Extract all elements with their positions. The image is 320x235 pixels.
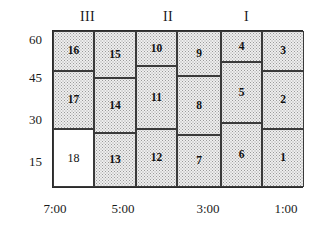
block-cell-label: 5 [239,87,245,99]
block-cell-14[interactable]: 14 [94,78,136,133]
block-cell-label: 17 [68,94,80,106]
y-tick-45: 45 [14,71,42,84]
y-tick-15: 15 [14,155,42,168]
block-cell-16[interactable]: 16 [53,31,94,71]
y-tick-60: 60 [14,33,42,46]
block-cell-label: 3 [280,45,286,57]
block-cell-label: 8 [196,100,202,112]
block-cell-1[interactable]: 1 [262,129,304,187]
block-cell-label: 18 [68,152,80,164]
block-cell-label: 11 [151,92,162,104]
block-cell-13[interactable]: 13 [94,133,136,187]
block-cell-17[interactable]: 17 [53,71,94,129]
block-cell-label: 1 [280,152,286,164]
block-cell-5[interactable]: 5 [221,62,262,123]
block-cell-4[interactable]: 4 [221,31,262,62]
block-cell-11[interactable]: 11 [136,66,177,129]
block-cell-label: 2 [280,94,286,106]
block-cell-label: 14 [109,100,121,112]
y-tick-30: 30 [14,113,42,126]
block-cell-label: 9 [196,48,202,60]
group-label-iii: III [80,10,95,24]
block-cell-label: 12 [151,152,163,164]
block-cell-6[interactable]: 6 [221,123,262,187]
block-cell-label: 16 [68,45,80,57]
x-tick-5-00: 5:00 [100,202,146,215]
x-tick-1-00: 1:00 [263,202,309,215]
block-cell-label: 7 [196,155,202,167]
block-cell-15[interactable]: 15 [94,31,136,78]
plot-area: 161718151413101112987456321 [52,30,303,188]
block-cell-3[interactable]: 3 [262,31,304,71]
shift-block-diagram: IIIIII 60453015 7:005:003:001:00 1617181… [0,0,320,235]
block-cell-2[interactable]: 2 [262,71,304,129]
block-cell-label: 10 [151,43,163,55]
block-cell-label: 13 [109,154,121,166]
block-cell-12[interactable]: 12 [136,129,177,187]
block-cell-9[interactable]: 9 [177,31,221,76]
block-cell-8[interactable]: 8 [177,76,221,135]
block-cell-18[interactable]: 18 [53,129,94,187]
x-tick-7-00: 7:00 [32,202,78,215]
block-cell-label: 4 [239,41,245,53]
x-tick-3-00: 3:00 [185,202,231,215]
group-label-ii: II [163,10,173,24]
group-label-i: I [244,10,249,24]
block-cell-label: 6 [239,149,245,161]
block-cell-label: 15 [109,49,121,61]
block-cell-7[interactable]: 7 [177,135,221,187]
block-cell-10[interactable]: 10 [136,31,177,66]
